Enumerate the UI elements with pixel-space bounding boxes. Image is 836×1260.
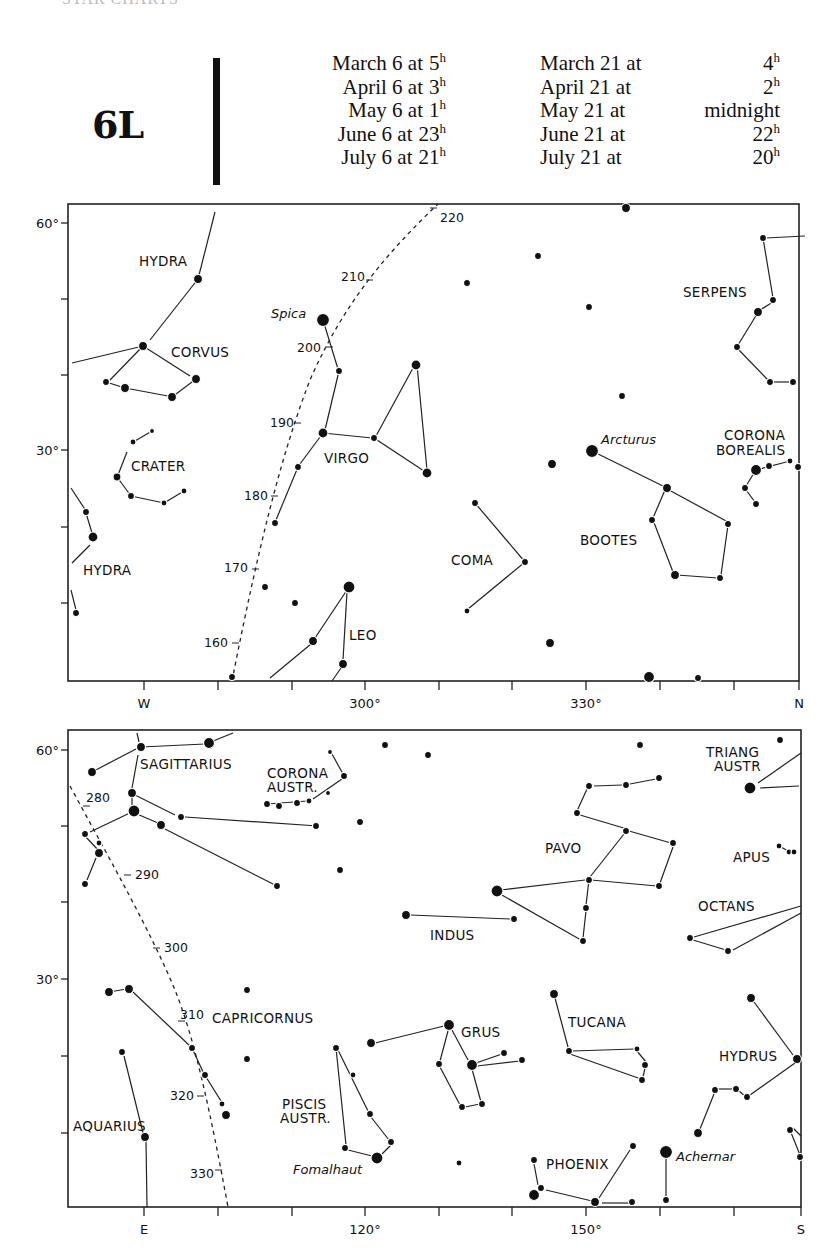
star-icon	[744, 1094, 751, 1101]
star-icon	[538, 1185, 545, 1192]
star-icon	[586, 877, 593, 884]
star-icon	[357, 819, 364, 826]
star-icon	[128, 805, 140, 817]
star-icon	[580, 938, 587, 945]
constellation-line	[92, 749, 136, 772]
constellation-label: INDUS	[430, 927, 474, 943]
star-icon	[137, 743, 146, 752]
constellation-line	[381, 1145, 391, 1155]
star-icon	[342, 1145, 349, 1152]
constellation-line	[371, 1117, 389, 1140]
constellation-line	[440, 1031, 448, 1061]
constellation-line	[137, 814, 158, 823]
constellation-line	[758, 753, 801, 783]
star-icon	[264, 801, 271, 808]
star-icon	[274, 883, 281, 890]
constellation-line	[135, 795, 175, 815]
star-icon	[467, 1060, 478, 1071]
x-tick-label: 150°	[570, 1222, 601, 1237]
star-icon	[119, 1049, 126, 1056]
star-icon	[787, 1127, 794, 1134]
y-tick-label: 30°	[36, 972, 59, 987]
constellation-line	[577, 789, 587, 811]
constellation-line	[165, 829, 275, 885]
constellation-line	[643, 1068, 645, 1077]
constellation-line	[476, 1054, 502, 1063]
constellation-line	[572, 1049, 635, 1051]
star-icon	[337, 867, 344, 874]
constellation-line	[410, 915, 510, 919]
star-icon	[747, 994, 756, 1003]
constellation-line	[793, 1128, 801, 1136]
star-icon	[634, 1046, 640, 1052]
constellation-line	[555, 998, 568, 1047]
star-icon	[333, 1045, 340, 1052]
star-icon	[725, 948, 732, 955]
constellation-line	[700, 1094, 714, 1129]
star-icon	[276, 803, 283, 810]
constellation-label: PAVO	[545, 840, 581, 856]
constellation-line	[591, 880, 657, 886]
star-icon	[306, 798, 312, 804]
ecliptic-label: 280	[86, 790, 110, 805]
star-icon	[219, 1101, 225, 1107]
ecliptic-label: 310	[180, 1007, 204, 1022]
star-icon	[456, 1160, 462, 1166]
star-icon	[511, 916, 518, 923]
star-icon	[96, 840, 102, 846]
x-tick-label: 120°	[349, 1222, 380, 1237]
constellation-label: AUSTR	[714, 758, 761, 774]
star-name-label: Achernar	[675, 1149, 737, 1164]
star-icon	[637, 742, 644, 749]
star-icon	[712, 1087, 719, 1094]
star-icon	[630, 1143, 637, 1150]
star-icon	[660, 1146, 673, 1159]
star-icon	[105, 988, 114, 997]
star-icon	[491, 885, 503, 897]
constellation-label: APUS	[733, 849, 770, 865]
constellation-label: AQUARIUS	[73, 1118, 146, 1134]
star-icon	[367, 1039, 376, 1048]
constellation-line	[637, 1051, 646, 1062]
constellation-line	[580, 815, 627, 829]
star-icon	[88, 768, 97, 777]
constellation-label: TUCANA	[567, 1014, 626, 1030]
star-icon	[694, 1129, 703, 1138]
star-icon	[776, 843, 782, 849]
star-icon	[444, 1020, 455, 1031]
star-icon	[341, 773, 348, 780]
star-icon	[371, 1152, 383, 1164]
x-tick-label: E	[140, 1222, 148, 1237]
star-icon	[566, 1048, 573, 1055]
constellation-line	[465, 1104, 480, 1107]
star-icon	[367, 1111, 374, 1118]
star-icon	[202, 1072, 209, 1079]
star-icon	[459, 1104, 466, 1111]
constellation-line	[440, 1067, 460, 1105]
constellation-line	[90, 811, 134, 832]
star-icon	[529, 1190, 540, 1201]
constellation-line	[583, 911, 586, 938]
constellation-line	[570, 1054, 641, 1079]
ecliptic-label: 300	[164, 940, 188, 955]
constellation-line	[546, 1190, 592, 1201]
ecliptic-label: 320	[170, 1088, 194, 1103]
star-icon	[82, 881, 89, 888]
star-icon	[244, 1056, 251, 1063]
star-icon	[797, 1154, 804, 1161]
constellation-line	[137, 733, 139, 742]
constellation-line	[534, 1164, 538, 1185]
constellation-line	[733, 913, 801, 950]
star-icon	[629, 1199, 636, 1206]
star-icon	[313, 823, 320, 830]
ecliptic-label: 290	[135, 867, 159, 882]
constellation-line	[213, 733, 233, 741]
star-icon	[777, 737, 784, 744]
star-icon	[574, 810, 581, 817]
constellation-label: HYDRUS	[719, 1048, 777, 1064]
star-icon	[793, 1055, 802, 1064]
star-icon	[157, 821, 166, 830]
star-icon	[733, 1086, 740, 1093]
constellation-label: GRUS	[461, 1024, 501, 1040]
constellation-line	[750, 1063, 795, 1095]
